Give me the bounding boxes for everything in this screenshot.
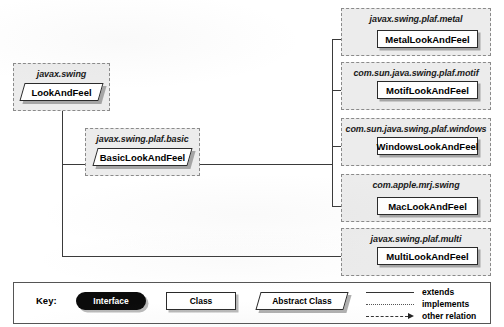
package-label-javax-swing-plaf-multi: javax.swing.plaf.multi (342, 234, 490, 244)
package-label-javax-swing-plaf-basic: javax.swing.plaf.basic (86, 134, 199, 144)
connector-basic-to-fan (200, 164, 333, 165)
connector-lookandfeel-to-multi (62, 256, 377, 257)
class-hierarchy-diagram: javax.swing LookAndFeel javax.swing.plaf… (0, 0, 504, 327)
legend-line-other-relation (366, 316, 408, 317)
class-box-lookandfeel[interactable]: LookAndFeel (22, 83, 101, 101)
class-label-lookandfeel: LookAndFeel (22, 83, 101, 101)
package-label-javax-swing-plaf-metal: javax.swing.plaf.metal (342, 14, 490, 24)
legend-interface-swatch: Interface (76, 292, 146, 310)
class-label-basiclookandfeel: BasicLookAndFeel (95, 148, 190, 166)
package-label-com-sun-java-swing-plaf-motif: com.sun.java.swing.plaf.motif (342, 68, 490, 78)
legend-abstract-class-swatch: Abstract Class (258, 292, 346, 310)
legend-abstract-class-label: Abstract Class (258, 292, 346, 310)
legend-key-label: Key: (36, 295, 57, 306)
class-box-basiclookandfeel[interactable]: BasicLookAndFeel (95, 148, 190, 166)
class-box-maclookandfeel[interactable]: MacLookAndFeel (377, 197, 478, 215)
connector-lookandfeel-trunk (62, 105, 63, 257)
legend-label-other-relation: other relation (422, 311, 476, 321)
legend-label-implements: implements (422, 299, 469, 309)
package-label-com-apple-mrj-swing: com.apple.mrj.swing (342, 180, 490, 190)
class-box-motiflookandfeel[interactable]: MotifLookAndFeel (377, 81, 478, 99)
connector-fan-trunk (332, 39, 333, 207)
legend-class-swatch: Class (166, 292, 236, 310)
class-box-windowslookandfeel[interactable]: WindowsLookAndFeel (377, 137, 478, 155)
package-label-javax-swing: javax.swing (14, 69, 109, 79)
arrow-head-icon (408, 313, 414, 319)
legend-label-extends: extends (422, 287, 454, 297)
legend-line-implements (366, 304, 414, 305)
class-box-metallookandfeel[interactable]: MetalLookAndFeel (377, 30, 478, 48)
legend-panel: Key: Interface Class Abstract Class exte… (13, 282, 491, 324)
class-box-multilookandfeel[interactable]: MultiLookAndFeel (377, 247, 478, 265)
legend-line-extends (366, 292, 414, 293)
package-label-com-sun-java-swing-plaf-windows: com.sun.java.swing.plaf.windows (342, 124, 490, 134)
